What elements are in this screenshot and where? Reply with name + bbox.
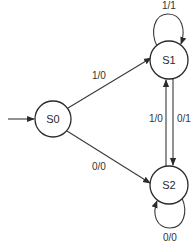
transition-label: 0/0 <box>163 232 177 243</box>
state-s2: S2 <box>150 166 188 204</box>
state-diagram: 1/0 0/0 1/1 0/1 1/0 0/0 S0 S1 S2 <box>0 0 194 248</box>
transition-s1-self: 1/1 <box>154 0 183 46</box>
state-label: S0 <box>46 113 59 125</box>
transition-label: 1/0 <box>149 113 163 124</box>
state-s1: S1 <box>150 41 188 79</box>
transition-label: 0/0 <box>92 161 106 172</box>
transition-s0-s2: 0/0 <box>67 131 150 183</box>
transition-arrow <box>67 131 150 183</box>
state-label: S2 <box>162 179 175 191</box>
state-label: S1 <box>162 54 175 66</box>
transition-label: 0/1 <box>177 113 191 124</box>
state-s0: S0 <box>35 101 71 137</box>
transition-s0-s1: 1/0 <box>68 58 151 108</box>
transition-arrow <box>68 58 151 108</box>
transition-label: 1/1 <box>162 0 176 11</box>
transition-s2-s1: 1/0 <box>149 80 166 166</box>
transition-s1-s2: 0/1 <box>173 79 191 165</box>
transition-label: 1/0 <box>92 70 106 81</box>
transition-s2-self: 0/0 <box>155 198 185 243</box>
